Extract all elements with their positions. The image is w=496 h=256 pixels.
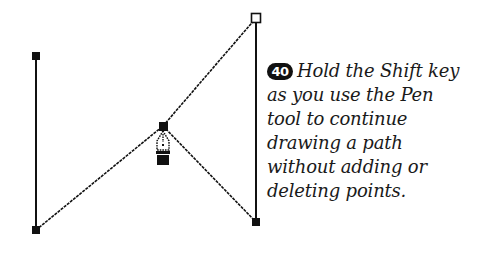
segment-middle-to-top-right (163, 18, 256, 126)
anchor-point-top-left[interactable] (32, 52, 40, 60)
figure: 40Hold the Shift key as you use the Pen … (0, 0, 496, 256)
anchor-point-top-right[interactable] (252, 14, 261, 23)
caption-line-3: tool to continue (267, 107, 492, 131)
caption-line-5: without adding or (267, 155, 492, 179)
caption-line-1: 40Hold the Shift key (267, 59, 492, 83)
step-number-badge: 40 (267, 63, 293, 80)
anchor-point-middle[interactable] (159, 122, 168, 131)
caption-line-4: drawing a path (267, 131, 492, 155)
caption-line-2: as you use the Pen (267, 83, 492, 107)
anchor-point-bottom-right[interactable] (252, 218, 260, 226)
path-segments (36, 18, 256, 230)
caption-text-line-1: Hold the Shift key (297, 60, 459, 81)
segment-middle-to-bottom-right (163, 126, 256, 222)
anchor-point-bottom-left[interactable] (32, 226, 40, 234)
figure-caption: 40Hold the Shift key as you use the Pen … (267, 59, 492, 203)
pen-tool-cursor-icon (156, 131, 170, 165)
caption-line-6: deleting points. (267, 179, 492, 203)
path-diagram (0, 0, 280, 256)
segment-bottom-left-to-middle (36, 126, 163, 230)
